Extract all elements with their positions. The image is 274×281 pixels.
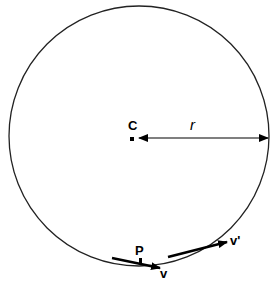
point-p-marker [139, 258, 142, 263]
circular-motion-diagram: C r P v v' [0, 0, 274, 281]
center-point [130, 137, 134, 141]
velocity-v-prime-label: v' [230, 233, 240, 248]
center-label: C [128, 118, 138, 133]
velocity-vector-v-prime [168, 242, 227, 257]
radius-label: r [190, 116, 196, 133]
point-p-label: P [135, 243, 144, 258]
velocity-v-label: v [160, 266, 168, 281]
circle-path [9, 6, 269, 266]
